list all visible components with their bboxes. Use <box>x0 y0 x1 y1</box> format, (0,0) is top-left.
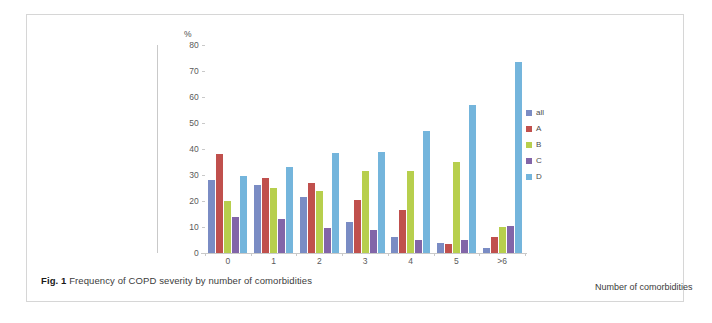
x-tick-label: 2 <box>296 256 342 266</box>
bar-D-2 <box>332 153 339 253</box>
bar-B-1 <box>270 188 277 253</box>
legend-label: C <box>536 157 542 165</box>
bar-all-3 <box>346 222 353 253</box>
bar-group <box>388 45 434 253</box>
legend-swatch-icon <box>526 142 532 148</box>
bar-all-0 <box>208 180 215 253</box>
x-tick-mark <box>479 253 480 256</box>
legend-swatch-icon <box>526 126 532 132</box>
bar-all-4 <box>391 237 398 253</box>
figure-caption-text: Frequency of COPD severity by number of … <box>69 275 312 286</box>
legend-item-A[interactable]: A <box>526 125 544 133</box>
plot-area <box>205 45 525 253</box>
bar-D->6 <box>515 62 522 253</box>
bar-B-2 <box>316 191 323 253</box>
bar-A-2 <box>308 183 315 253</box>
bar-all-5 <box>437 243 444 253</box>
x-tick-mark <box>525 253 526 256</box>
legend-label: A <box>536 125 541 133</box>
legend-swatch-icon <box>526 174 532 180</box>
bar-group <box>342 45 388 253</box>
figure-caption-prefix: Fig. 1 <box>41 275 66 286</box>
x-tick-mark <box>342 253 343 256</box>
y-tick-label: 60 <box>173 92 199 102</box>
bar-group <box>205 45 251 253</box>
bar-D-3 <box>378 152 385 253</box>
bar-A-1 <box>262 178 269 253</box>
x-tick-label: 4 <box>388 256 434 266</box>
bar-A->6 <box>491 237 498 253</box>
y-tick-label: 80 <box>173 40 199 50</box>
bar-D-1 <box>286 167 293 253</box>
y-tick-label: 40 <box>173 144 199 154</box>
y-axis-unit-label: % <box>184 29 192 39</box>
legend-label: all <box>536 109 544 117</box>
figure-caption: Fig. 1 Frequency of COPD severity by num… <box>41 275 312 286</box>
figure-panel: % 01020304050607080 012345>6 Number of c… <box>26 14 684 302</box>
bar-all-1 <box>254 185 261 253</box>
x-tick-mark <box>296 253 297 256</box>
legend-item-all[interactable]: all <box>526 109 544 117</box>
bar-group <box>434 45 480 253</box>
x-tick-mark <box>251 253 252 256</box>
x-tick-label: 1 <box>251 256 297 266</box>
bar-group <box>251 45 297 253</box>
x-tick-label: 3 <box>342 256 388 266</box>
bar-B-4 <box>407 171 414 253</box>
bar-all-2 <box>300 197 307 253</box>
x-axis-ticks: 012345>6 <box>205 256 525 266</box>
bar-B->6 <box>499 227 506 253</box>
y-tick-label: 70 <box>173 66 199 76</box>
bar-chart: % 01020304050607080 012345>6 Number of c… <box>157 29 537 279</box>
bar-D-5 <box>469 105 476 253</box>
bar-group <box>479 45 525 253</box>
bar-B-5 <box>453 162 460 253</box>
legend-label: D <box>536 173 542 181</box>
bar-C-5 <box>461 240 468 253</box>
chart-legend: allABCD <box>526 109 544 181</box>
bar-A-0 <box>216 154 223 253</box>
bar-C-4 <box>415 240 422 253</box>
legend-item-D[interactable]: D <box>526 173 544 181</box>
bar-B-0 <box>224 201 231 253</box>
bar-group <box>296 45 342 253</box>
y-tick-label: 10 <box>173 222 199 232</box>
legend-swatch-icon <box>526 158 532 164</box>
legend-label: B <box>536 141 541 149</box>
bar-all->6 <box>483 248 490 253</box>
x-tick-mark <box>388 253 389 256</box>
x-tick-label: 5 <box>434 256 480 266</box>
legend-item-C[interactable]: C <box>526 157 544 165</box>
bar-D-0 <box>240 176 247 253</box>
y-tick-label: 50 <box>173 118 199 128</box>
x-tick-label: 0 <box>205 256 251 266</box>
bar-C-1 <box>278 219 285 253</box>
bar-C-3 <box>370 230 377 253</box>
y-axis-line <box>157 45 158 253</box>
bars-layer <box>205 45 525 253</box>
x-tick-mark <box>434 253 435 256</box>
x-tick-mark <box>205 253 206 256</box>
bar-A-4 <box>399 210 406 253</box>
bar-C->6 <box>507 226 514 253</box>
bar-A-5 <box>445 244 452 253</box>
legend-item-B[interactable]: B <box>526 141 544 149</box>
bar-C-0 <box>232 217 239 253</box>
x-tick-label: >6 <box>479 256 525 266</box>
bar-C-2 <box>324 228 331 253</box>
y-tick-label: 0 <box>173 248 199 258</box>
y-tick-label: 20 <box>173 196 199 206</box>
bar-A-3 <box>354 200 361 253</box>
x-axis-title: Number of comorbidities <box>595 281 705 293</box>
legend-swatch-icon <box>526 110 532 116</box>
y-tick-label: 30 <box>173 170 199 180</box>
bar-B-3 <box>362 171 369 253</box>
bar-D-4 <box>423 131 430 253</box>
